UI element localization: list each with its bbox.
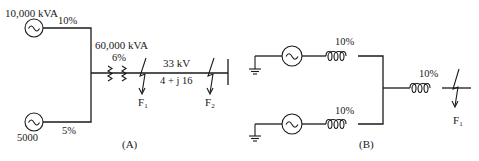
panel-a: 10,000 kVA 10% 5000 5% 60,000 kVA 6% 33 … [5, 7, 228, 151]
fault-f1-label: F1 [138, 96, 148, 110]
fault-f2-icon [207, 58, 214, 94]
power-system-diagram: 10,000 kVA 10% 5000 5% 60,000 kVA 6% 33 … [0, 0, 479, 161]
line-voltage: 33 kV [163, 57, 190, 69]
generator-b-bottom-icon [282, 114, 302, 134]
inductor-series-icon [410, 84, 430, 93]
transformer-reactance: 6% [112, 52, 126, 63]
line-impedance: 4 + j 16 [160, 75, 192, 86]
inductor-top-icon [326, 52, 346, 61]
fault-f2-label: F2 [205, 96, 215, 110]
fault-f1-icon [139, 58, 146, 94]
generator-top-rating: 10,000 kVA [5, 7, 58, 19]
generator-bottom-rating: 5000 [17, 132, 38, 143]
generator-bottom-icon [25, 113, 43, 131]
inductor-top-reactance: 10% [335, 36, 355, 47]
inductor-series-reactance: 10% [419, 68, 439, 79]
generator-top-reactance: 10% [58, 15, 78, 26]
fault-b-f1-icon [452, 69, 459, 107]
generator-bottom-reactance: 5% [62, 125, 76, 136]
bus-wiring [43, 28, 91, 122]
panel-b: 10% 10% 10% F1 (B) [249, 36, 471, 151]
fault-b-f1-label: F1 [453, 114, 463, 128]
panel-a-caption: (A) [122, 138, 138, 151]
inductor-bottom-reactance: 10% [335, 105, 355, 116]
panel-b-caption: (B) [359, 138, 374, 151]
ground-top-icon [249, 56, 261, 74]
transformer-rating: 60,000 kVA [95, 39, 148, 51]
ground-bottom-icon [249, 124, 261, 141]
top-branch-wire-right [358, 56, 383, 124]
generator-top-icon [25, 19, 43, 37]
inductor-bottom-icon [326, 120, 346, 129]
generator-b-top-icon [282, 46, 302, 66]
